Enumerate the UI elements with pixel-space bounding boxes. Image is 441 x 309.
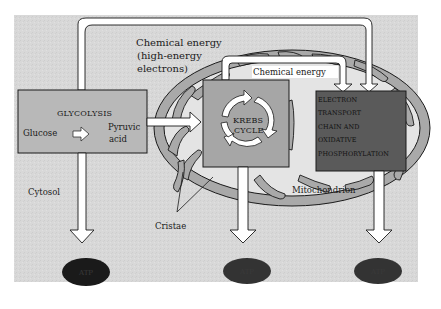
diagram-canvas: GLYCOLYSIS Glucose Pyruvic acid KREBS CY… (0, 0, 441, 309)
etc-line-3: CHAIN AND (318, 123, 359, 131)
atp-krebs-label: ATP (239, 268, 254, 276)
atp-etc-label: ATP (370, 268, 385, 276)
atp-glycolysis: ATP (62, 258, 110, 286)
electron-transport-chain-box: ELECTRON TRANSPORT CHAIN AND OXIDATIVE P… (316, 91, 406, 171)
krebs-label-1: KREBS (233, 116, 263, 125)
etc-line-5: PHOSPHORYLATION (318, 150, 389, 158)
high-energy-label: (high-energy (137, 50, 202, 61)
cristae-label: Cristae (155, 221, 186, 231)
glucose-label: Glucose (23, 128, 57, 138)
chemical-energy-inner-label: Chemical energy (253, 67, 326, 77)
pyruvic-acid-label-1: Pyruvic (108, 122, 141, 132)
krebs-label-2: CYCLE (234, 126, 264, 135)
atp-krebs: ATP (223, 258, 271, 284)
mitochondrion-label: Mitochondrion (292, 185, 356, 195)
etc-line-1: ELECTRON (318, 96, 357, 104)
glycolysis-title: GLYCOLYSIS (57, 109, 112, 118)
glycolysis-box: GLYCOLYSIS Glucose Pyruvic acid (18, 90, 147, 153)
pyruvic-acid-label-2: acid (109, 134, 128, 144)
atp-glycolysis-label: ATP (78, 269, 93, 277)
etc-line-4: OXIDATIVE (318, 136, 357, 144)
cytosol-label: Cytosol (28, 187, 60, 197)
etc-line-2: TRANSPORT (318, 109, 362, 117)
atp-etc: ATP (354, 258, 402, 284)
krebs-cycle-box: KREBS CYCLE (203, 80, 289, 167)
chemical-energy-label: Chemical energy (136, 37, 222, 48)
electrons-label: electrons) (137, 63, 188, 74)
